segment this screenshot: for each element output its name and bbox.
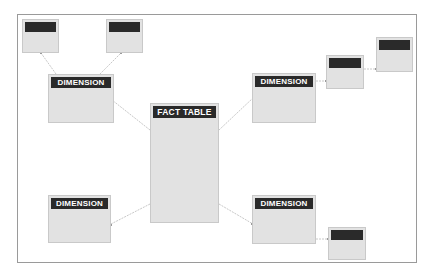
dimension-header: DIMENSION [51, 198, 108, 209]
connector-dim-sub-2 [100, 53, 121, 74]
sub-dimension-header [329, 58, 361, 68]
sub-dimension-box-1[interactable] [22, 19, 59, 53]
sub-dimension-header [331, 230, 363, 240]
sub-dimension-box-3[interactable] [326, 55, 364, 89]
connector-fact-dim-bottom-right [219, 204, 253, 224]
sub-dimension-header [25, 22, 56, 32]
connector-fact-dim-bottom-left [111, 204, 150, 224]
dimension-header: DIMENSION [51, 77, 111, 88]
fact-table-header: FACT TABLE [153, 106, 216, 118]
connector-dim-sub-1 [41, 53, 56, 74]
sub-dimension-box-2[interactable] [106, 19, 143, 53]
dimension-header: DIMENSION [255, 76, 313, 87]
dimension-box-bottom-right[interactable]: DIMENSION [252, 195, 316, 244]
sub-dimension-header [379, 40, 410, 50]
dimension-box-top-left[interactable]: DIMENSION [48, 74, 114, 123]
connector-fact-dim-top-right [219, 98, 253, 130]
dimension-header: DIMENSION [255, 198, 313, 209]
fact-table-box[interactable]: FACT TABLE [150, 103, 219, 223]
sub-dimension-box-4[interactable] [376, 37, 413, 72]
dimension-box-top-right[interactable]: DIMENSION [252, 73, 316, 123]
sub-dimension-box-5[interactable] [328, 227, 366, 260]
dimension-box-bottom-left[interactable]: DIMENSION [48, 195, 111, 243]
sub-dimension-header [109, 22, 140, 32]
connector-fact-dim-top-left [112, 100, 150, 130]
